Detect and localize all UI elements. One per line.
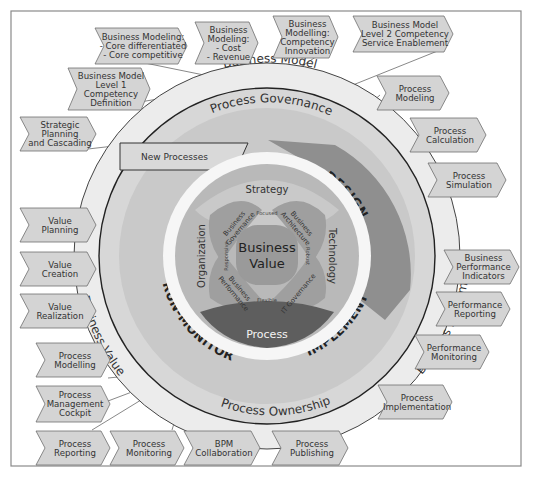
- chevron-proc-implementation: ProcessImplementation: [378, 385, 452, 419]
- center-label-line1: Business: [238, 240, 296, 255]
- chevron-label: Realization: [36, 311, 83, 321]
- chevron-label: Calculation: [426, 135, 474, 145]
- chevron-label: Modelling: [54, 360, 95, 370]
- chevron-bpi: BusinessPerformanceIndicators: [444, 250, 519, 284]
- bpm-diagram: Business Model Business Value Business P…: [0, 0, 536, 485]
- organization-label: Organization: [196, 224, 207, 288]
- chevron-proc-simulation: ProcessSimulation: [428, 163, 506, 197]
- chevron-label: and Cascading: [28, 138, 91, 148]
- chevron-label: - Revenue: [207, 52, 250, 62]
- focused-label: Focused: [256, 210, 277, 216]
- chevron-bm-level1: Business ModelLevel 1CompetencyDefinitio…: [68, 68, 150, 110]
- chevron-label: Cockpit: [59, 408, 92, 418]
- chevron-proc-calculation: ProcessCalculation: [410, 118, 486, 152]
- chevron-perf-monitoring: PerformanceMonitoring: [415, 335, 489, 369]
- chevron-label: Indicators: [462, 271, 505, 281]
- chevron-label: Creation: [42, 269, 78, 279]
- chevron-label: Implementation: [383, 402, 451, 412]
- chevron-label: Publishing: [290, 448, 334, 458]
- strategy-label: Strategy: [246, 184, 289, 195]
- chevron-label: Monitoring: [126, 448, 172, 458]
- chevron-bm-level2: Business ModelLevel 2 CompetencyService …: [353, 16, 453, 52]
- chevron-value-realization: ValueRealization: [20, 294, 96, 328]
- chevron-value-creation: ValueCreation: [20, 252, 96, 286]
- technology-label: Technology: [327, 227, 338, 284]
- responsive-label: Responsive: [223, 241, 230, 270]
- chevron-label: - Core competitive: [103, 50, 182, 60]
- svg-text:New Processes: New Processes: [141, 152, 208, 162]
- chevron-proc-modeling: ProcessModeling: [377, 76, 449, 110]
- chevron-label: Service Enablement: [362, 38, 449, 48]
- chevron-value-planning: ValuePlanning: [20, 208, 96, 242]
- chevron-label: Monitoring: [431, 352, 477, 362]
- chevron-proc-reporting: ProcessReporting: [36, 431, 110, 465]
- chevron-proc-modelling: ProcessModelling: [36, 343, 110, 377]
- robust-label: Robust: [305, 247, 311, 265]
- chevron-label: Simulation: [446, 180, 492, 190]
- center-label-line2: Value: [249, 256, 285, 271]
- chevron-label: Reporting: [454, 309, 496, 319]
- chevron-bm-competency: BusinessModelling:CompetencyInnovation: [273, 16, 338, 58]
- chevron-label: Reporting: [54, 448, 96, 458]
- chevron-label: Modeling: [395, 93, 434, 103]
- chevron-label: Planning: [41, 225, 78, 235]
- chevron-label: Collaboration: [195, 448, 252, 458]
- chevron-strategic: StrategicPlanningand Cascading: [20, 117, 96, 151]
- process-label: Process: [246, 328, 288, 341]
- chevron-label: Innovation: [285, 46, 331, 56]
- chevron-proc-publishing: ProcessPublishing: [272, 431, 348, 465]
- chevron-bpm-collab: BPMCollaboration: [184, 431, 260, 465]
- chevron-bm-core: Business Modeling:- Core differentiated-…: [95, 28, 187, 64]
- chevron-proc-cockpit: ProcessManagementCockpit: [36, 386, 110, 422]
- chevron-proc-monitoring: ProcessMonitoring: [110, 431, 184, 465]
- chevron-bm-cost: BusinessModeling:- Cost- Revenue: [195, 22, 258, 64]
- flexible-label: Flexible: [257, 297, 277, 303]
- chevron-perf-reporting: PerformanceReporting: [436, 292, 510, 326]
- chevron-label: Definition: [90, 98, 132, 108]
